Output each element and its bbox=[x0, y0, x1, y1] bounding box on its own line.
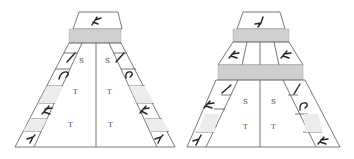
left-top-cell bbox=[73, 12, 122, 29]
fork-glyph-icon bbox=[42, 106, 52, 114]
left-trapezoid-diagram: S S T T T T bbox=[15, 12, 175, 147]
label-t: T bbox=[108, 121, 113, 129]
right-trapezoid-diagram: S S T T bbox=[187, 12, 340, 147]
right-inner-edge bbox=[109, 43, 157, 147]
right-top-cell bbox=[237, 12, 285, 29]
left-gray-band bbox=[69, 29, 121, 43]
upper-right-divider bbox=[274, 42, 279, 65]
four-glyph-icon bbox=[193, 135, 201, 145]
hook-glyph-icon bbox=[126, 72, 132, 78]
left-inner-edge bbox=[206, 80, 238, 147]
slash-glyph-icon bbox=[222, 85, 231, 93]
right-gray-band-upper bbox=[233, 29, 289, 42]
hook-glyph-icon bbox=[59, 72, 68, 79]
label-s: S bbox=[271, 98, 276, 106]
slash-glyph-icon bbox=[116, 53, 124, 62]
diagram-canvas: S S T T T T bbox=[0, 0, 354, 159]
slash-glyph-icon bbox=[294, 84, 300, 94]
four-glyph-icon bbox=[255, 17, 263, 27]
label-t: T bbox=[107, 88, 112, 96]
label-s: S bbox=[105, 57, 110, 65]
hook-glyph-icon bbox=[300, 103, 307, 110]
label-t: T bbox=[73, 88, 78, 96]
label-s: S bbox=[243, 98, 248, 106]
fork-glyph-icon bbox=[281, 51, 291, 58]
upper-left-divider bbox=[242, 42, 247, 65]
label-t: T bbox=[68, 121, 73, 129]
label-t: T bbox=[243, 123, 248, 131]
right-inner-edge bbox=[283, 80, 316, 147]
right-lower-outline bbox=[187, 80, 340, 147]
label-t: T bbox=[271, 123, 276, 131]
four-glyph-icon bbox=[155, 135, 163, 143]
fork-glyph-icon bbox=[229, 51, 239, 58]
left-top-glyph-icon bbox=[92, 17, 101, 25]
right-gray-band-lower bbox=[218, 65, 303, 80]
label-s: S bbox=[79, 57, 84, 65]
fork-glyph-icon bbox=[318, 137, 328, 144]
four-glyph-icon bbox=[27, 135, 35, 143]
right-strip-shaded-cell bbox=[304, 114, 323, 132]
